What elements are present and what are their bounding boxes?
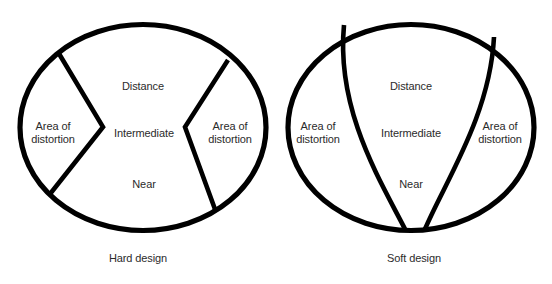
soft-design-caption: Soft design bbox=[276, 252, 552, 264]
hard-near-label: Near bbox=[98, 178, 190, 191]
soft-near-label: Near bbox=[365, 178, 457, 191]
soft-right-distortion-label: Area of distortion bbox=[463, 120, 537, 146]
hard-left-distortion-label: Area of distortion bbox=[16, 120, 90, 146]
hard-right-distortion-label: Area of distortion bbox=[193, 120, 267, 146]
soft-distance-label: Distance bbox=[356, 80, 466, 93]
soft-intermediate-label: Intermediate bbox=[357, 127, 465, 140]
soft-design-panel: Distance Intermediate Near Area of disto… bbox=[276, 0, 552, 284]
progressive-lens-design-figure: Distance Intermediate Near Area of disto… bbox=[0, 0, 552, 284]
soft-left-distortion-label: Area of distortion bbox=[281, 120, 355, 146]
hard-design-caption: Hard design bbox=[0, 252, 276, 264]
hard-distance-label: Distance bbox=[88, 80, 198, 93]
hard-design-panel: Distance Intermediate Near Area of disto… bbox=[0, 0, 276, 284]
hard-intermediate-label: Intermediate bbox=[90, 127, 198, 140]
